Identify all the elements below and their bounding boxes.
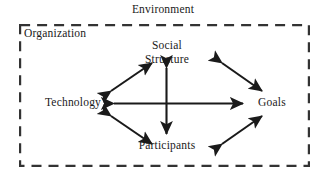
- node-participants: Participants: [129, 139, 205, 153]
- node-social-structure-line2: Structure: [131, 53, 203, 67]
- node-participants-label: Participants: [129, 139, 205, 153]
- diagram-canvas: Environment Organization Social: [0, 0, 326, 179]
- arrow-participants-goals: [222, 116, 262, 144]
- node-technology: Technology: [34, 96, 112, 110]
- node-social-structure-line1: Social: [131, 39, 203, 53]
- arrow-technology-social-structure: [111, 63, 152, 91]
- node-technology-label: Technology: [34, 96, 112, 110]
- node-goals-label: Goals: [248, 96, 296, 110]
- node-social-structure: Social Structure: [131, 39, 203, 66]
- node-goals: Goals: [248, 96, 296, 110]
- arrow-social-structure-goals: [222, 63, 262, 91]
